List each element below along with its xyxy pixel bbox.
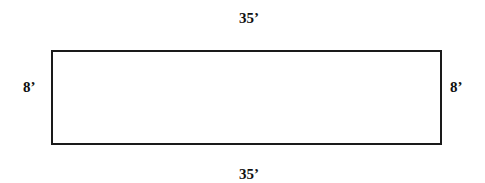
- top-dimension-label: 35’: [239, 11, 259, 26]
- rectangle-shape: [51, 50, 442, 145]
- right-dimension-label: 8’: [450, 80, 463, 95]
- bottom-dimension-label: 35’: [239, 167, 259, 182]
- left-dimension-label: 8’: [23, 80, 36, 95]
- dimension-diagram: 35’ 8’ 8’ 35’: [0, 0, 485, 183]
